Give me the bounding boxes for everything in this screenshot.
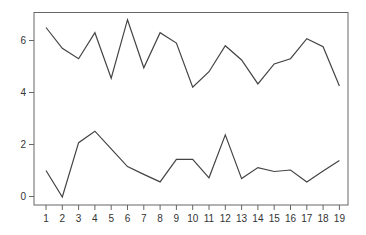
y-tick-label: 4	[20, 87, 26, 98]
x-tick-label: 7	[141, 213, 147, 224]
x-tick-label: 14	[252, 213, 264, 224]
y-tick-label: 6	[20, 35, 26, 46]
x-tick-label: 13	[236, 213, 248, 224]
x-tick-label: 2	[60, 213, 66, 224]
x-axis: 12345678910111213141516171819	[43, 205, 345, 224]
x-tick-label: 6	[125, 213, 131, 224]
x-tick-label: 17	[301, 213, 313, 224]
y-tick-label: 0	[20, 191, 26, 202]
y-axis: 0246	[20, 35, 34, 202]
x-tick-label: 12	[220, 213, 232, 224]
series-group	[46, 20, 339, 197]
x-tick-label: 4	[92, 213, 98, 224]
x-tick-label: 3	[76, 213, 82, 224]
x-tick-label: 15	[269, 213, 281, 224]
y-tick-label: 2	[20, 139, 26, 150]
x-tick-label: 11	[204, 213, 215, 224]
x-tick-label: 5	[108, 213, 114, 224]
x-tick-label: 9	[174, 213, 180, 224]
x-tick-label: 10	[187, 213, 199, 224]
x-tick-label: 19	[334, 213, 346, 224]
series-line-lower	[46, 131, 339, 197]
plot-frame	[34, 13, 348, 206]
x-tick-label: 1	[43, 213, 49, 224]
line-chart: 0246 12345678910111213141516171819	[0, 0, 366, 235]
series-line-upper	[46, 20, 339, 88]
x-tick-label: 8	[157, 213, 163, 224]
x-tick-label: 18	[318, 213, 330, 224]
x-tick-label: 16	[285, 213, 297, 224]
